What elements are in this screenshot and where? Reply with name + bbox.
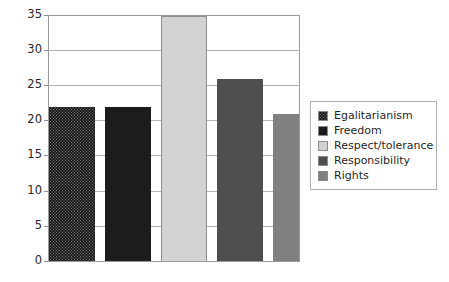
bar-rights <box>273 114 300 261</box>
legend-label-freedom: Freedom <box>334 125 382 136</box>
bar-chart: 35 30 25 20 15 10 5 0 <box>0 0 449 282</box>
legend-item-freedom: Freedom <box>318 123 430 138</box>
y-axis-tick-label-30: 30 <box>2 44 42 56</box>
bar-freedom <box>105 107 151 261</box>
bar-responsibility <box>217 79 263 261</box>
legend-item-respect-tolerance: Respect/tolerance <box>318 138 430 153</box>
legend-item-responsibility: Responsibility <box>318 153 430 168</box>
legend-label-egalitarianism: Egalitarianism <box>334 110 413 121</box>
legend-swatch-icon-egalitarianism <box>318 111 328 121</box>
legend-item-egalitarianism: Egalitarianism <box>318 108 430 123</box>
legend-label-respect-tolerance: Respect/tolerance <box>334 140 433 151</box>
y-axis-tick-label-15: 15 <box>2 149 42 161</box>
legend-item-rights: Rights <box>318 168 430 183</box>
bar-respect-tolerance <box>161 16 207 261</box>
bar-egalitarianism <box>49 107 95 261</box>
y-axis-tick-label-5: 5 <box>2 220 42 232</box>
y-axis-tick-label-35: 35 <box>2 9 42 21</box>
y-axis-tick-label-25: 25 <box>2 79 42 91</box>
legend-swatch-icon-rights <box>318 171 328 181</box>
legend-swatch-icon-respect-tolerance <box>318 141 328 151</box>
y-axis-tick-label-20: 20 <box>2 114 42 126</box>
plot-area <box>48 15 300 262</box>
legend-swatch-icon-responsibility <box>318 156 328 166</box>
y-axis-tick-label-0: 0 <box>2 255 42 267</box>
y-axis-tick-label-10: 10 <box>2 185 42 197</box>
legend-label-rights: Rights <box>334 170 369 181</box>
bars-layer <box>49 16 299 261</box>
legend-swatch-icon-freedom <box>318 126 328 136</box>
legend: Egalitarianism Freedom Respect/tolerance… <box>310 101 437 190</box>
legend-label-responsibility: Responsibility <box>334 155 410 166</box>
